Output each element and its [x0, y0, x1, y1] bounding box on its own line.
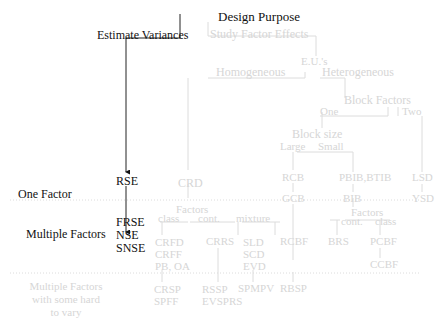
homog-class-designs: CRFD CRFF PB, OA	[155, 236, 190, 272]
design-rcbf: RCBF	[280, 236, 308, 247]
homog-hard-class: CRSP SPFF	[154, 283, 181, 307]
design-lsd: LSD	[412, 172, 433, 183]
purpose-study-factor-effects: Study Factor Effects	[210, 28, 308, 40]
active-path	[126, 14, 180, 232]
homog-factor-mixture: mixture	[236, 213, 270, 224]
design-spmpv: SPMPV	[238, 283, 274, 294]
design-ysd: YSD	[412, 193, 434, 204]
row-label-hard-to-vary: Multiple Factors with some hard to vary	[26, 280, 106, 319]
purpose-estimate-variances: Estimate Variances	[97, 29, 188, 41]
design-rbsp: RBSP	[280, 283, 307, 294]
row-label-one-factor: One Factor	[18, 188, 72, 200]
hetero-factor-class: class	[375, 216, 396, 227]
diagram-title: Design Purpose	[218, 10, 300, 23]
block-factors-two: Two	[402, 106, 421, 117]
design-bib: BIB	[343, 193, 361, 204]
connector-lines	[0, 0, 441, 325]
design-crrs: CRRS	[206, 236, 234, 247]
homog-factor-class: class	[158, 213, 179, 224]
block-size-label: Block size	[292, 128, 342, 140]
homog-mixture-designs: SLD SCD EVD	[243, 236, 266, 272]
design-pcbf: PCBF	[370, 236, 397, 247]
branch-heterogeneous: Heterogeneous	[322, 66, 394, 78]
row-label-multiple-factors: Multiple Factors	[26, 228, 106, 240]
design-brs: BRS	[328, 236, 349, 247]
hetero-factor-cont: cont.	[341, 216, 363, 227]
design-pbib-btib: PBIB,BTIB	[339, 172, 391, 183]
homog-factor-cont: cont.	[198, 213, 220, 224]
block-size-small: Small	[318, 141, 344, 152]
block-size-large: Large	[280, 141, 305, 152]
branch-homogeneous: Homogeneous	[216, 66, 285, 78]
block-factors-label: Block Factors	[344, 94, 411, 106]
block-factors-one: One	[320, 106, 338, 117]
design-gcb: GCB	[282, 193, 305, 204]
design-rcb: RCB	[282, 172, 304, 183]
variance-multiple-designs: FRSE NSE SNSE	[116, 216, 145, 255]
design-ccbf: CCBF	[370, 259, 398, 270]
homog-hard-cont: RSSP EVSPRS	[202, 283, 242, 307]
design-crd: CRD	[178, 177, 203, 189]
design-rse: RSE	[116, 175, 138, 187]
